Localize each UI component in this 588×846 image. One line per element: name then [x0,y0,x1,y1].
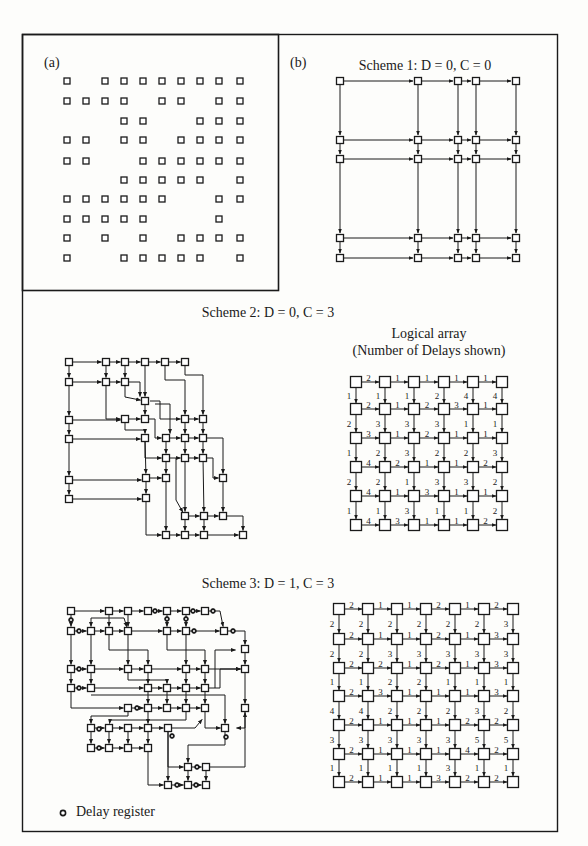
panel-a-label: (a) [44,55,60,71]
processor-node [392,777,403,788]
delay-count-label: 2 [347,477,352,487]
processor-node [145,608,152,615]
delay-count-label: 1 [465,687,470,697]
processor-node [164,705,171,712]
processor-node [380,462,391,473]
processor-node [66,496,73,503]
delay-count-label: 2 [376,477,381,487]
processor-node [468,520,479,531]
processor-node [479,777,490,788]
processor-node [125,745,132,752]
delay-count-label: 2 [366,373,371,383]
processor-node [337,255,344,262]
processor-node [380,433,391,444]
delay-count-label: 3 [493,448,498,458]
delay-count-label: 1 [395,373,400,383]
processor-cell [237,196,243,202]
delay-register-core [154,610,156,612]
processor-node [497,491,508,502]
processor-cell [140,255,146,261]
delay-count-label: 3 [446,763,451,773]
processor-node [66,359,73,366]
figure-page: 2111121231312114211241311431121212113221… [0,0,588,846]
processor-node [334,634,345,645]
processor-node [334,691,345,702]
delay-count-label: 3 [446,735,451,745]
processor-node [450,749,461,760]
processor-node [165,782,172,789]
delay-count-label: 1 [454,429,459,439]
processor-node [392,749,403,760]
delay-register-core [136,707,138,709]
processor-node [143,475,150,482]
processor-node [439,520,450,531]
processor-cell [216,137,222,143]
processor-node [473,255,480,262]
delay-count-label: 2 [425,400,430,410]
delay-register-core [185,618,187,620]
interconnect-wire [165,362,185,415]
processor-node [145,745,152,752]
delay-count-label: 1 [407,600,412,610]
delay-count-label: 2 [388,706,393,716]
processor-cell [197,235,203,241]
processor-cell [121,255,127,261]
processor-cell [121,216,127,222]
delay-count-label: 1 [405,391,410,401]
processor-cell [237,177,243,183]
processor-node [202,705,209,712]
processor-node [200,455,207,462]
processor-node [455,78,462,85]
delay-count-label: 1 [465,630,470,640]
delay-count-label: 3 [366,429,371,439]
delay-count-label: 1 [395,400,400,410]
interconnect-wire [203,458,204,512]
processor-node [363,663,374,674]
processor-cell [237,158,243,164]
delay-count-label: 3 [378,687,383,697]
processor-node [508,720,519,731]
processor-node [242,666,249,673]
delay-count-label: 3 [376,419,381,429]
processor-node [122,416,129,423]
processor-node [337,235,344,242]
processor-node [409,491,420,502]
delay-count-label: 1 [464,419,469,429]
processor-node [392,634,403,645]
processor-node [450,634,461,645]
delay-count-label: 3 [446,649,451,659]
delay-count-label: 2 [504,706,509,716]
scheme1-physical-array [337,78,520,262]
processor-node [363,777,374,788]
processor-node [221,628,228,635]
delay-count-label: 1 [407,745,412,755]
processor-cell [216,78,222,84]
delay-count-label: 1 [454,373,459,383]
processor-node [163,455,170,462]
delay-count-label: 4 [493,391,498,401]
delay-count-label: 2 [425,429,430,439]
delay-count-label: 3 [504,619,509,629]
processor-cell [102,196,108,202]
processor-node [203,782,210,789]
processor-cell [178,78,184,84]
interconnect-wire [145,438,146,474]
delay-count-label: 2 [436,630,441,640]
delay-count-label: 1 [359,677,364,687]
processor-node [479,663,490,674]
delay-register-core [193,630,195,632]
processor-node [380,377,391,388]
processor-node [473,78,480,85]
delay-count-label: 1 [465,600,470,610]
scheme3-physical-array [68,608,249,789]
processor-cell [178,158,184,164]
processor-node [455,156,462,163]
processor-node [380,404,391,415]
processor-node [415,255,422,262]
panel-b-label: (b) [290,55,306,71]
processor-node [334,777,345,788]
processor-cell [237,137,243,143]
processor-cell [197,118,203,124]
processor-node [182,455,189,462]
delay-count-label: 2 [378,659,383,669]
